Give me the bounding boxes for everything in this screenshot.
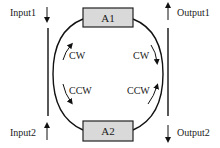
left-ccw-label: CCW (69, 85, 92, 96)
box-a2-label: A2 (101, 125, 114, 137)
box-a1: A1 (83, 8, 133, 27)
input2-label: Input2 (10, 127, 36, 138)
right-cw-arrow-icon (151, 45, 157, 62)
output1-label: Output1 (177, 7, 210, 18)
box-a1-label: A1 (101, 12, 114, 24)
left-cw-label: CW (69, 50, 86, 61)
ring-right-arc (133, 19, 163, 130)
ring-diagram: A1 A2 Input1 Input2 Output1 Output2 CW C… (0, 0, 220, 148)
output2-label: Output2 (177, 127, 210, 138)
right-cw-label: CW (133, 50, 150, 61)
right-ccw-label: CCW (127, 85, 150, 96)
input1-label: Input1 (10, 7, 36, 18)
box-a2: A2 (83, 121, 133, 141)
ring-left-arc (53, 19, 83, 130)
